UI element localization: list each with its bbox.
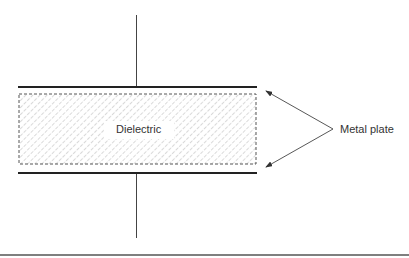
pointer-arrows bbox=[266, 91, 333, 167]
dielectric-label: Dielectric bbox=[116, 123, 161, 135]
metal-plate-label: Metal plate bbox=[340, 123, 394, 135]
